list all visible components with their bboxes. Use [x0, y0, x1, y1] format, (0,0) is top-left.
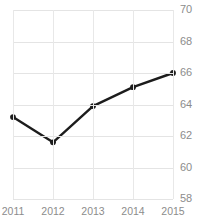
gridline-vertical — [133, 10, 134, 199]
y-axis-tick-label: 68 — [180, 36, 192, 47]
y-axis-tick-label: 64 — [180, 99, 192, 110]
gridline-vertical — [53, 10, 54, 199]
x-axis-tick-label: 2015 — [156, 206, 190, 217]
y-axis-tick-label: 58 — [180, 193, 192, 204]
gridline-horizontal — [13, 199, 173, 200]
x-axis-tick-label: 2014 — [116, 206, 150, 217]
x-axis-tick-label: 2012 — [36, 206, 70, 217]
plot-area — [13, 10, 173, 199]
line-chart: 70686664626058 20112012201320142015 — [0, 0, 205, 224]
x-axis-tick-label: 2011 — [0, 206, 30, 217]
gridline-vertical — [93, 10, 94, 199]
y-axis-tick-label: 62 — [180, 130, 192, 141]
gridline-vertical — [13, 10, 14, 199]
y-axis-tick-label: 66 — [180, 67, 192, 78]
y-axis-tick-label: 70 — [180, 4, 192, 15]
x-axis-tick-label: 2013 — [76, 206, 110, 217]
gridline-vertical — [173, 10, 174, 199]
y-axis-tick-label: 60 — [180, 162, 192, 173]
